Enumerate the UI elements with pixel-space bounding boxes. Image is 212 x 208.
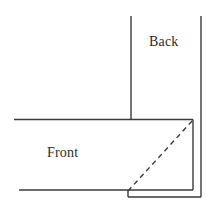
fold-diagonal-line — [128, 120, 193, 191]
back-region-label: Back — [149, 35, 179, 49]
front-region-label: Front — [47, 146, 78, 160]
diagram-canvas: Back Front — [0, 0, 212, 208]
diagram-svg — [0, 0, 212, 208]
dashed-line-group — [128, 120, 193, 191]
